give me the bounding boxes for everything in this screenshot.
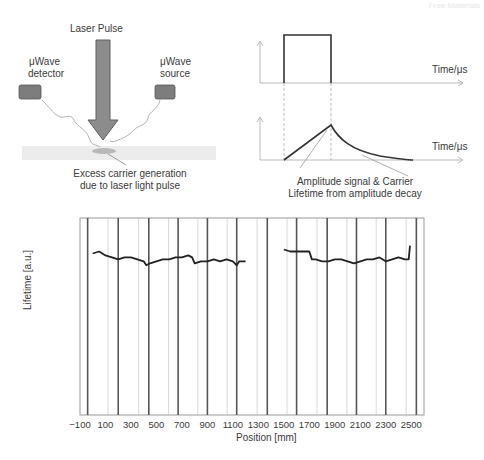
x-tick-label: 700 xyxy=(174,419,190,430)
x-tick-label: −100 xyxy=(69,419,90,430)
x-tick-label: 1500 xyxy=(273,419,294,430)
x-tick-label: 1900 xyxy=(324,419,345,430)
x-tick-label: 2100 xyxy=(350,419,371,430)
x-tick-label: 500 xyxy=(149,419,165,430)
x-axis-label: Position [mm] xyxy=(236,432,297,444)
x-tick-label: 100 xyxy=(98,419,114,430)
chart-plot-area xyxy=(0,0,484,460)
x-tick-label: 1700 xyxy=(299,419,320,430)
plot-frame xyxy=(80,218,424,415)
x-tick-label: 2500 xyxy=(401,419,422,430)
lifetime-trace xyxy=(93,252,246,266)
x-tick-label: 1300 xyxy=(248,419,269,430)
x-tick-label: 900 xyxy=(199,419,215,430)
y-axis-label: Lifetime [a.u.] xyxy=(22,250,34,310)
x-tick-label: 300 xyxy=(123,419,139,430)
x-tick-label: 2300 xyxy=(375,419,396,430)
x-tick-label: 1100 xyxy=(223,419,243,430)
